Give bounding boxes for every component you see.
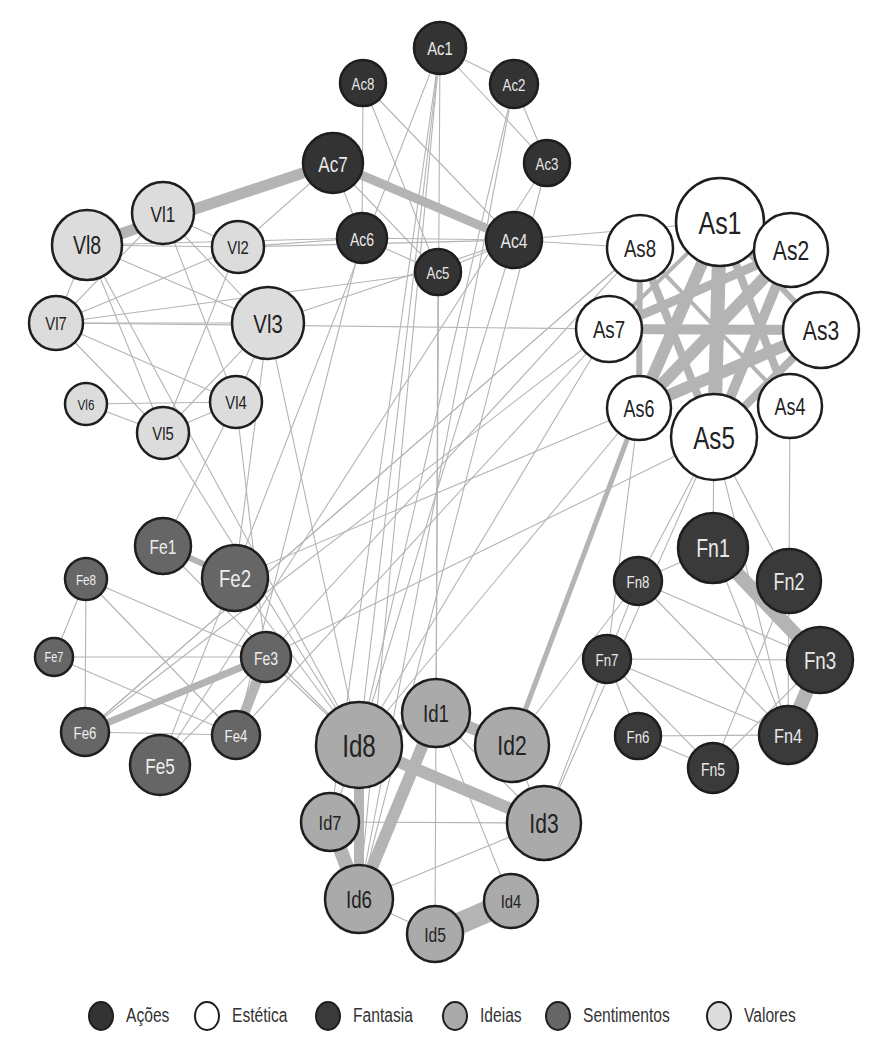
node-id3[interactable]: Id3 xyxy=(507,786,581,860)
node-as3[interactable]: As3 xyxy=(783,292,859,368)
legend-item-fantasia: Fantasia xyxy=(315,1001,418,1031)
node-ac8[interactable]: Ac8 xyxy=(340,60,386,106)
node-label: As5 xyxy=(693,421,735,456)
node-label: Ac2 xyxy=(503,76,526,95)
node-fe4[interactable]: Fe4 xyxy=(212,711,260,759)
edge-as5-fe3 xyxy=(266,437,714,657)
node-label: Fn1 xyxy=(696,535,730,563)
node-id6[interactable]: Id6 xyxy=(325,865,393,933)
node-as5[interactable]: As5 xyxy=(671,394,757,480)
node-id5[interactable]: Id5 xyxy=(407,906,463,962)
legend-label: Valores xyxy=(744,1004,796,1027)
node-as2[interactable]: As2 xyxy=(754,213,828,287)
node-ac6[interactable]: Ac6 xyxy=(337,213,387,263)
legend-item-acoes: Ações xyxy=(88,1001,170,1031)
edge-as7-fe4 xyxy=(236,329,609,735)
node-vl3[interactable]: Vl3 xyxy=(232,287,304,359)
node-as8[interactable]: As8 xyxy=(607,215,673,281)
node-id7[interactable]: Id7 xyxy=(301,793,359,851)
legend-label: Ações xyxy=(126,1004,169,1027)
legend: Ações Estética Fantasia Ideias Sentiment… xyxy=(0,990,887,1041)
legend-label: Fantasia xyxy=(353,1004,413,1027)
node-fe3[interactable]: Fe3 xyxy=(241,632,291,682)
node-label: Fe2 xyxy=(219,566,251,593)
node-label: Ac4 xyxy=(501,230,528,252)
node-id8[interactable]: Id8 xyxy=(316,702,402,788)
node-vl8[interactable]: Vl8 xyxy=(52,210,122,280)
node-id4[interactable]: Id4 xyxy=(484,874,538,928)
node-label: Id7 xyxy=(319,811,342,834)
nodes-layer: Ac1Ac2Ac3Ac4Ac5Ac6Ac7Ac8As1As2As3As4As5A… xyxy=(29,22,859,962)
node-vl6[interactable]: Vl6 xyxy=(65,383,107,425)
node-as4[interactable]: As4 xyxy=(758,374,822,438)
legend-swatch-valores-icon xyxy=(706,1001,732,1031)
node-label: Ac3 xyxy=(536,155,559,174)
node-fe2[interactable]: Fe2 xyxy=(202,545,268,611)
node-label: Ac7 xyxy=(318,152,348,177)
node-label: Fe3 xyxy=(254,648,278,668)
node-label: Fn4 xyxy=(774,724,802,747)
node-fn6[interactable]: Fn6 xyxy=(615,713,661,759)
node-label: Fn5 xyxy=(701,759,725,779)
node-label: Ac8 xyxy=(352,75,375,94)
node-label: Fe5 xyxy=(145,754,175,779)
node-as6[interactable]: As6 xyxy=(607,376,671,440)
node-fe1[interactable]: Fe1 xyxy=(135,518,191,574)
edge-vl3-fe2 xyxy=(235,323,268,578)
node-label: Id5 xyxy=(424,924,446,946)
edge-vl8-id8 xyxy=(87,245,359,745)
node-fn2[interactable]: Fn2 xyxy=(757,549,821,613)
legend-label: Estética xyxy=(232,1004,288,1027)
node-ac3[interactable]: Ac3 xyxy=(524,140,570,186)
node-id2[interactable]: Id2 xyxy=(475,708,549,782)
edge-vl3-ac4 xyxy=(268,240,514,323)
node-fe5[interactable]: Fe5 xyxy=(130,735,190,795)
node-ac2[interactable]: Ac2 xyxy=(490,60,538,108)
legend-swatch-ideias-icon xyxy=(442,1001,468,1031)
node-label: As2 xyxy=(773,236,809,266)
node-as7[interactable]: As7 xyxy=(576,296,642,362)
node-fe7[interactable]: Fe7 xyxy=(35,638,73,676)
node-label: As3 xyxy=(803,316,839,346)
node-label: Id4 xyxy=(501,891,522,912)
node-ac4[interactable]: Ac4 xyxy=(486,212,542,268)
node-ac7[interactable]: Ac7 xyxy=(303,133,363,193)
node-label: Fe6 xyxy=(74,724,97,743)
node-vl2[interactable]: Vl2 xyxy=(212,221,264,273)
node-vl5[interactable]: Vl5 xyxy=(137,407,189,459)
legend-item-ideias: Ideias xyxy=(442,1001,521,1031)
node-label: Vl4 xyxy=(225,392,246,413)
edge-ac7-vl8 xyxy=(87,163,333,245)
node-label: As7 xyxy=(593,317,625,344)
node-label: As1 xyxy=(699,205,742,241)
legend-item-estetica: Estética xyxy=(194,1001,291,1031)
legend-label: Ideias xyxy=(480,1004,522,1027)
node-vl4[interactable]: Vl4 xyxy=(210,376,262,428)
edge-vl3-id8 xyxy=(268,323,359,745)
node-vl7[interactable]: Vl7 xyxy=(29,296,83,350)
node-as1[interactable]: As1 xyxy=(676,178,764,266)
node-id1[interactable]: Id1 xyxy=(402,679,470,747)
node-label: Id3 xyxy=(529,809,558,839)
node-fn7[interactable]: Fn7 xyxy=(583,635,631,683)
node-fe6[interactable]: Fe6 xyxy=(61,708,109,756)
node-label: Id6 xyxy=(346,887,372,914)
node-fn3[interactable]: Fn3 xyxy=(787,627,853,693)
node-label: As4 xyxy=(775,394,806,420)
node-fn1[interactable]: Fn1 xyxy=(678,513,748,583)
node-ac5[interactable]: Ac5 xyxy=(415,249,461,295)
edge-vl4-fe3 xyxy=(236,402,266,657)
legend-item-valores: Valores xyxy=(706,1001,798,1031)
node-label: Vl7 xyxy=(45,313,66,334)
node-label: Id8 xyxy=(342,729,376,764)
node-vl1[interactable]: Vl1 xyxy=(132,182,194,244)
node-label: Id2 xyxy=(497,731,526,761)
node-label: As6 xyxy=(624,396,655,422)
legend-label: Sentimentos xyxy=(583,1004,670,1027)
node-ac1[interactable]: Ac1 xyxy=(414,22,466,74)
node-fn4[interactable]: Fn4 xyxy=(759,706,817,764)
node-label: Ac6 xyxy=(350,229,374,249)
node-fn5[interactable]: Fn5 xyxy=(688,743,738,793)
node-fe8[interactable]: Fe8 xyxy=(65,558,107,600)
node-fn8[interactable]: Fn8 xyxy=(614,557,662,605)
